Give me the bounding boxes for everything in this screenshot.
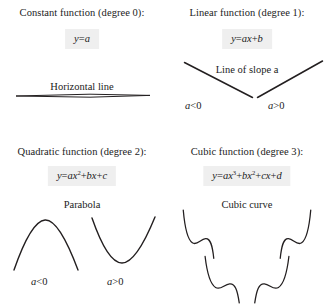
equation-term-ax: ax (67, 170, 77, 181)
figure-cubic-curves (165, 139, 329, 292)
heading-constant-function: Constant function (degree 0): (0, 7, 164, 19)
sign-number: 0 (118, 276, 123, 287)
sign-label-linear-positive: a>0 (268, 100, 284, 112)
cubic-curve-outer-right (280, 210, 311, 258)
cubic-curve-inner-left (205, 256, 239, 302)
parabola-opening-down (14, 220, 78, 270)
sign-number: 0 (279, 100, 284, 111)
panel-quadratic-function: Quadratic function (degree 2): y=ax2+bx+… (0, 139, 164, 292)
equation-term-d: d (276, 170, 281, 181)
sign-label-quadratic-negative: a<0 (31, 276, 47, 288)
parabola-opening-up (92, 217, 155, 263)
equation-term-a: a (85, 33, 90, 44)
equation-term-ax: ax (242, 33, 252, 44)
figure-linear-lines (165, 0, 329, 153)
cubic-curve-outer-left (183, 210, 214, 258)
panel-cubic-function: Cubic function (degree 3): y=ax3+bx2+cx+… (165, 139, 329, 292)
figure-horizontal-line (0, 0, 164, 153)
heading-linear-function: Linear function (degree 1): (165, 7, 329, 19)
caption-cubic-curve: Cubic curve (165, 199, 329, 211)
caption-parabola: Parabola (0, 199, 164, 211)
sign-number: 0 (42, 276, 47, 287)
equation-cubic-function: y=ax3+bx2+cx+d (203, 166, 290, 186)
equation-quadratic-function: y=ax2+bx+c (48, 166, 116, 186)
cubic-curve-inner-right (255, 256, 289, 302)
equation-term-bx: bx (242, 170, 252, 181)
horizontal-line-stroke (16, 94, 150, 97)
equation-term-c: c (102, 170, 107, 181)
equation-term-cx: cx (261, 170, 270, 181)
panel-linear-function: Linear function (degree 1): y=ax+b Line … (165, 0, 329, 153)
equation-constant-function: y=a (65, 29, 99, 49)
caption-horizontal-line: Horizontal line (0, 81, 164, 93)
heading-quadratic-function: Quadratic function (degree 2): (0, 146, 164, 158)
panel-constant-function: Constant function (degree 0): y=a Horizo… (0, 0, 164, 153)
heading-cubic-function: Cubic function (degree 3): (165, 146, 329, 158)
equation-term-ax: ax (223, 170, 233, 181)
sign-label-linear-negative: a<0 (185, 100, 201, 112)
equation-linear-function: y=ax+b (222, 29, 272, 49)
equation-term-bx: bx (87, 170, 97, 181)
sign-label-quadratic-positive: a>0 (107, 276, 123, 288)
sign-number: 0 (196, 100, 201, 111)
caption-line-of-slope: Line of slope a (165, 64, 329, 76)
equation-term-b: b (258, 33, 263, 44)
figure-parabolas (0, 139, 164, 292)
